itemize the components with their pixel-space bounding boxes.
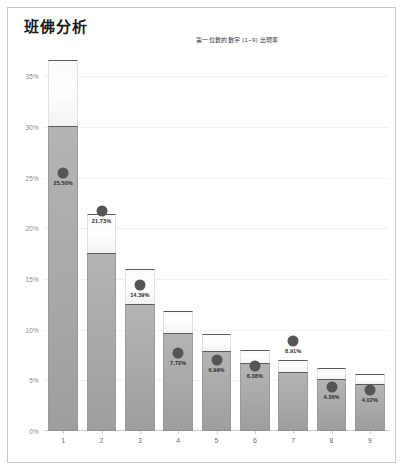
y-axis-tick-label: 5%: [29, 377, 39, 384]
x-axis-tick-label: 7: [291, 437, 295, 444]
data-point-label: 4.02%: [362, 397, 378, 403]
bar-column[interactable]: [48, 56, 78, 431]
y-axis-tick-label: 25%: [25, 174, 39, 181]
data-point-label: 7.72%: [170, 360, 186, 366]
x-axis-tick-label: 3: [138, 437, 142, 444]
data-point-label: 6.99%: [208, 367, 224, 373]
upper-range-box: [163, 311, 193, 332]
upper-range-box: [278, 360, 308, 372]
lower-range-box: [87, 253, 117, 431]
x-axis-tick-mark: [140, 431, 141, 434]
x-axis-tick-mark: [102, 431, 103, 434]
data-point-label: 6.38%: [247, 373, 263, 379]
y-axis-tick-label: 15%: [25, 275, 39, 282]
bar-column[interactable]: [163, 56, 193, 431]
data-point-marker[interactable]: [173, 347, 184, 358]
x-axis-tick-label: 2: [100, 437, 104, 444]
data-point-marker[interactable]: [288, 335, 299, 346]
y-axis-tick-label: 10%: [25, 326, 39, 333]
x-axis-tick-label: 1: [61, 437, 65, 444]
bar-column[interactable]: [87, 56, 117, 431]
data-point-label: 25.50%: [54, 180, 73, 186]
x-axis-tick-mark: [63, 431, 64, 434]
page-title: 班佛分析: [24, 18, 88, 36]
x-axis-tick-mark: [370, 431, 371, 434]
y-axis-tick-label: 0%: [29, 428, 39, 435]
data-point-marker[interactable]: [249, 361, 260, 372]
data-point-marker[interactable]: [364, 385, 375, 396]
lower-range-box: [125, 304, 155, 431]
bar-column[interactable]: [202, 56, 232, 431]
data-point-label: 8.91%: [285, 348, 301, 354]
data-point-marker[interactable]: [134, 280, 145, 291]
upper-range-box: [202, 334, 232, 351]
screenshot-root: 班佛分析 第一位數的數字 (1~9) 出現率 0%5%10%15%20%25%3…: [0, 0, 403, 470]
upper-range-box: [355, 374, 385, 384]
plot-area: 0%5%10%15%20%25%30%35% 25.50%21.73%14.39…: [44, 56, 389, 431]
data-point-marker[interactable]: [326, 381, 337, 392]
bar-column[interactable]: [278, 56, 308, 431]
x-axis-tick-label: 9: [368, 437, 372, 444]
data-point-marker[interactable]: [211, 355, 222, 366]
x-axis-tick-mark: [293, 431, 294, 434]
data-point-label: 21.73%: [92, 218, 111, 224]
bar-column[interactable]: [125, 56, 155, 431]
y-axis-tick-label: 35%: [25, 73, 39, 80]
y-axis-tick-label: 20%: [25, 225, 39, 232]
x-axis-tick-mark: [332, 431, 333, 434]
chart-subtitle: 第一位數的數字 (1~9) 出現率: [44, 35, 403, 44]
lower-range-box: [278, 372, 308, 431]
data-point-label: 4.36%: [323, 394, 339, 400]
x-axis-tick-mark: [255, 431, 256, 434]
chart-card: 班佛分析 第一位數的數字 (1~9) 出現率 0%5%10%15%20%25%3…: [7, 7, 396, 463]
bar-column[interactable]: [317, 56, 347, 431]
bar-column[interactable]: [355, 56, 385, 431]
x-axis-tick-mark: [217, 431, 218, 434]
x-axis-tick-label: 4: [176, 437, 180, 444]
y-axis-tick-label: 30%: [25, 123, 39, 130]
upper-range-box: [48, 60, 78, 126]
x-axis-tick-label: 5: [215, 437, 219, 444]
x-axis-tick-label: 6: [253, 437, 257, 444]
x-axis-tick-mark: [178, 431, 179, 434]
x-axis-tick-label: 8: [330, 437, 334, 444]
upper-range-box: [317, 368, 347, 379]
data-point-label: 14.39%: [130, 292, 149, 298]
data-point-marker[interactable]: [58, 167, 69, 178]
data-point-marker[interactable]: [96, 205, 107, 216]
